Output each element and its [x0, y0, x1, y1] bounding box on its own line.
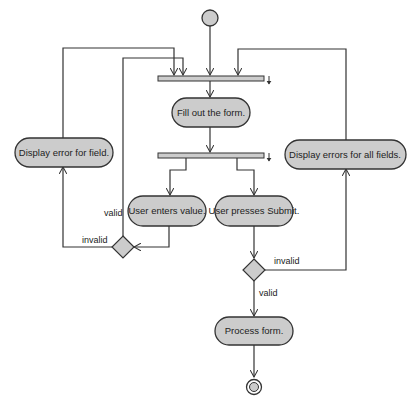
- action-label: Fill out the form.: [177, 107, 245, 118]
- decision-node-right: [243, 259, 265, 281]
- action-process-form: Process form.: [215, 317, 293, 345]
- edge-fork2-to-submit: [237, 158, 254, 195]
- action-user-enters-value: User enters value.: [128, 196, 206, 226]
- edge-label-left-valid: valid: [104, 208, 123, 218]
- fork-bar-top: [158, 76, 269, 84]
- final-node: [247, 380, 262, 395]
- action-user-presses-submit: User presses Submit.: [209, 196, 300, 226]
- action-display-error-field: Display error for field.: [15, 138, 113, 167]
- edge-label-left-invalid: invalid: [82, 235, 108, 245]
- edge-label-right-valid: valid: [259, 288, 278, 298]
- action-label: Display errors for all fields.: [289, 149, 401, 160]
- action-fill-form: Fill out the form.: [172, 98, 250, 127]
- initial-node: [202, 10, 218, 26]
- action-label: User enters value.: [128, 205, 205, 216]
- action-label: User presses Submit.: [209, 205, 300, 216]
- edge-display-error-to-fork: [63, 48, 174, 138]
- edge-display-all-to-fork: [238, 49, 346, 140]
- edge-enter-to-decision: [134, 226, 169, 247]
- edge-label-right-invalid: invalid: [274, 256, 300, 266]
- edge-fork2-to-enter: [170, 158, 186, 195]
- activity-diagram: Fill out the form. Display error for fie…: [0, 0, 418, 408]
- action-label: Display error for field.: [19, 147, 109, 158]
- action-display-errors-all: Display errors for all fields.: [285, 140, 406, 169]
- action-label: Process form.: [225, 325, 284, 336]
- fork-bar-middle: [158, 153, 269, 161]
- decision-node-left: [112, 236, 134, 258]
